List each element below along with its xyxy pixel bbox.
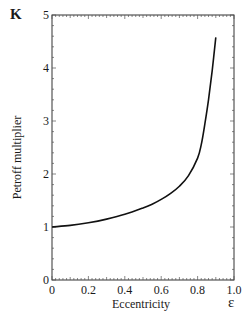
x-tick-label: 1.0 <box>227 283 242 297</box>
y-tick-label: 4 <box>43 61 49 75</box>
x-tick-label: 0.2 <box>81 283 96 297</box>
y-tick-label: 1 <box>43 220 49 234</box>
data-line <box>52 37 216 227</box>
chart-plot-area: 00.20.40.60.81.0012345 <box>0 0 247 322</box>
x-tick-label: 0.6 <box>154 283 169 297</box>
y-tick-label: 2 <box>43 167 49 181</box>
x-tick-label: 0 <box>49 283 55 297</box>
y-tick-label: 5 <box>43 8 49 22</box>
y-tick-label: 0 <box>43 273 49 287</box>
y-tick-label: 3 <box>43 114 49 128</box>
x-tick-label: 0.4 <box>117 283 132 297</box>
x-tick-label: 0.8 <box>190 283 205 297</box>
plot-frame <box>52 15 234 280</box>
